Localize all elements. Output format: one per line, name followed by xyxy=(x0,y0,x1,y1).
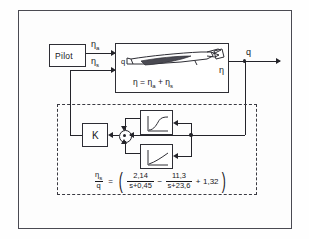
arrow-lower-branch-into-sum xyxy=(121,139,127,144)
formula-term-3: 1,32 xyxy=(203,177,219,186)
gain-block-k: K xyxy=(82,123,108,147)
line-feedback-bus xyxy=(142,135,245,136)
aircraft-block: q η η = ηa + ηs xyxy=(115,43,229,93)
aircraft-input-label-q: q xyxy=(121,58,125,66)
gain-block-label: K xyxy=(92,131,99,141)
formula-open-paren: ( xyxy=(119,172,123,189)
formula-equals: = xyxy=(108,177,113,186)
eq-eta-s-sub: s xyxy=(170,83,173,89)
signal-line-eta-s xyxy=(70,70,115,71)
junction-dot-filter-bus xyxy=(189,133,192,136)
diagram-canvas: Pilot ηa ηs xyxy=(0,0,309,239)
formula-close-paren: ) xyxy=(222,172,226,189)
arrow-direct-feed-into-sum xyxy=(129,132,134,138)
signal-label-eta-a: ηa xyxy=(91,40,99,51)
formula-lhs: ηs q xyxy=(93,171,104,191)
eta-a-subscript: a xyxy=(96,45,99,51)
formula-lhs-sub: s xyxy=(99,175,102,181)
formula-term-1: 2,14 s+0,45 xyxy=(127,172,154,190)
formula-term-1-numerator: 2,14 xyxy=(131,172,150,181)
signal-label-eta-s: ηs xyxy=(91,57,99,68)
aircraft-silhouette-icon xyxy=(121,47,225,73)
output-label-q: q xyxy=(246,48,251,57)
filter-block-lower xyxy=(140,144,173,169)
line-upper-branch-horizontal xyxy=(125,118,141,119)
eq-eta-a-sub: a xyxy=(152,83,155,89)
aircraft-equation: η = ηa + ηs xyxy=(133,78,173,89)
formula-term-2: 11,3 s+23,6 xyxy=(166,172,193,190)
arrow-output-q xyxy=(276,58,281,64)
eq-plus: + xyxy=(158,77,163,87)
formula-term-2-numerator: 11,3 xyxy=(170,172,188,181)
formula-plus: + xyxy=(196,177,201,186)
eta-s-subscript: s xyxy=(96,62,99,68)
rising-response-curve-icon xyxy=(145,149,170,167)
eq-equals: = xyxy=(140,77,145,87)
output-line-q xyxy=(229,61,280,62)
transfer-function-formula: ηs q = ( 2,14 s+0,45 − 11,3 s+23,6 + 1,3… xyxy=(92,171,229,191)
aircraft-output-label-eta: η xyxy=(219,66,224,75)
summing-junction-center-dot xyxy=(123,134,126,137)
lag-response-curve-icon xyxy=(145,115,170,133)
line-lower-branch-horizontal xyxy=(125,153,141,154)
eq-eta: η xyxy=(133,77,138,87)
formula-lhs-numerator: ηs xyxy=(93,171,104,181)
line-feed-upper-filter xyxy=(178,123,192,124)
formula-term-1-denominator: s+0,45 xyxy=(127,181,154,191)
pilot-block: Pilot xyxy=(49,44,86,67)
formula-minus: − xyxy=(157,177,162,186)
formula-lhs-denominator: q xyxy=(95,181,103,191)
pilot-block-label: Pilot xyxy=(55,52,73,61)
line-feed-lower-filter xyxy=(178,156,192,157)
line-lower-filter-riser xyxy=(191,135,192,156)
formula-term-2-denominator: s+23,6 xyxy=(166,181,193,191)
arrow-upper-branch-into-sum xyxy=(121,126,127,131)
filter-block-upper xyxy=(140,110,173,135)
